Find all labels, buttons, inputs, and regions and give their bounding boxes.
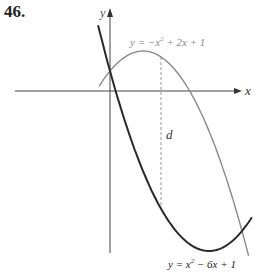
parabola-down-curve bbox=[99, 51, 249, 256]
label-up-lhs: y = x bbox=[167, 258, 191, 270]
parabola-down-label: y = −x2 + 2x + 1 bbox=[129, 35, 205, 48]
distance-label: d bbox=[166, 127, 173, 142]
y-axis-label: y bbox=[99, 6, 106, 20]
parabola-up-label: y = x2 − 6x + 1 bbox=[167, 257, 236, 270]
diagram: 46. x y d y = −x2 + 2x + 1 y = x2 − 6x +… bbox=[0, 0, 261, 273]
x-axis-label: x bbox=[244, 83, 251, 98]
graph-canvas: x y d y = −x2 + 2x + 1 y = x2 − 6x + 1 bbox=[0, 0, 261, 273]
x-axis-arrow-icon bbox=[234, 88, 242, 94]
y-axis-arrow-icon bbox=[107, 8, 113, 17]
label-down-lhs: y = −x bbox=[129, 36, 160, 48]
label-down-rhs: + 2x + 1 bbox=[164, 36, 206, 48]
label-up-rhs: − 6x + 1 bbox=[194, 258, 236, 270]
problem-number: 46. bbox=[4, 2, 25, 22]
